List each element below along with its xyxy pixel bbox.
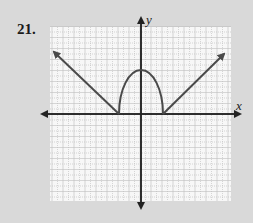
graph: y x: [0, 0, 253, 223]
y-axis-label: y: [144, 12, 152, 27]
x-axis-label: x: [235, 98, 242, 113]
